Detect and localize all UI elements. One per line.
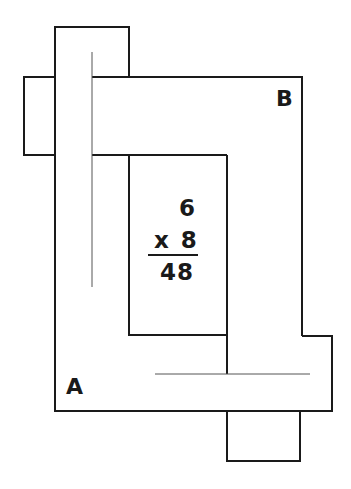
- label-b: B: [276, 86, 293, 111]
- sum-rule: [148, 254, 198, 256]
- shape-b-outer: [92, 77, 302, 336]
- shape-b-left-tab: [24, 77, 55, 155]
- product: 48: [160, 260, 194, 284]
- multiplicand: 6: [179, 196, 195, 220]
- multiplier-line: x 8: [154, 228, 197, 252]
- shape-b-bottom-tab: [227, 411, 300, 461]
- label-a: A: [66, 374, 83, 399]
